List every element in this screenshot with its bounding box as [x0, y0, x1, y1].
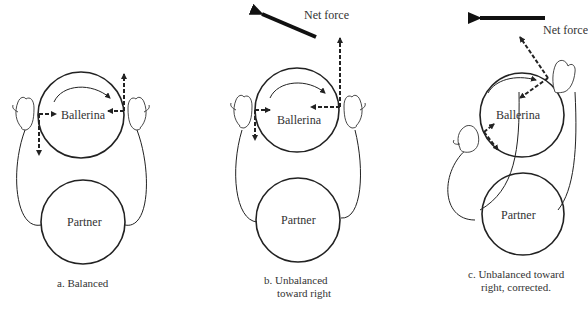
right-hand-icon: [344, 95, 365, 128]
force-arrow-icon: [520, 78, 548, 98]
force-arrow-icon: [484, 124, 494, 132]
left-hand-icon: [13, 97, 34, 130]
rotation-arrow-icon: [270, 83, 325, 98]
force-arrow-icon: [520, 37, 548, 78]
caption-c-line1: c. Unbalanced toward: [468, 268, 564, 281]
arms-outline: [236, 130, 361, 222]
partner-label: Partner: [281, 213, 316, 228]
ballerina-label: Ballerina: [496, 108, 540, 123]
ballerina-label: Ballerina: [61, 108, 105, 123]
force-arrow-icon: [484, 132, 498, 150]
partner-label: Partner: [501, 208, 536, 223]
left-hand-icon: [231, 95, 252, 128]
rotation-arrow-icon: [488, 78, 536, 93]
arms-outline: [558, 92, 576, 210]
arms-outline: [17, 130, 147, 225]
partner-label: Partner: [67, 215, 102, 230]
ballerina-force-diagram: [0, 0, 588, 310]
rotation-arrow-icon: [54, 87, 110, 102]
caption-b-line2: toward right: [277, 287, 331, 300]
net-force-label: Net force: [304, 8, 349, 23]
caption-b-line1: b. Unbalanced: [264, 274, 328, 287]
net-force-label: Net force: [543, 23, 588, 38]
panel-a: [13, 72, 150, 264]
right-hand-icon: [553, 60, 575, 92]
caption-c-line2: right, corrected.: [481, 281, 551, 294]
ballerina-label: Ballerina: [277, 113, 321, 128]
caption-a: a. Balanced: [57, 277, 108, 290]
left-hand-icon: [453, 125, 478, 152]
right-hand-icon: [128, 97, 149, 130]
